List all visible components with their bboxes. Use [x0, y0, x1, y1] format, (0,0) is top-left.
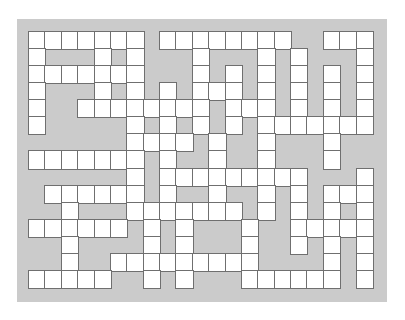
- grid-cell[interactable]: [127, 186, 143, 203]
- grid-cell[interactable]: [340, 220, 356, 237]
- grid-cell[interactable]: [45, 151, 61, 168]
- grid-cell[interactable]: [258, 151, 274, 168]
- grid-cell[interactable]: [340, 186, 356, 203]
- grid-cell[interactable]: [357, 169, 373, 186]
- grid-cell[interactable]: [160, 83, 176, 100]
- grid-cell[interactable]: [127, 203, 143, 220]
- grid-cell[interactable]: [291, 271, 307, 288]
- grid-cell[interactable]: [160, 169, 176, 186]
- grid-cell[interactable]: [258, 49, 274, 66]
- grid-cell[interactable]: [357, 49, 373, 66]
- grid-cell[interactable]: [62, 220, 78, 237]
- grid-cell[interactable]: [176, 237, 192, 254]
- grid-cell[interactable]: [29, 83, 45, 100]
- grid-cell[interactable]: [193, 203, 209, 220]
- grid-cell[interactable]: [45, 271, 61, 288]
- grid-cell[interactable]: [258, 271, 274, 288]
- grid-cell[interactable]: [95, 49, 111, 66]
- grid-cell[interactable]: [95, 186, 111, 203]
- grid-cell[interactable]: [111, 66, 127, 83]
- grid-cell[interactable]: [258, 203, 274, 220]
- grid-cell[interactable]: [307, 271, 323, 288]
- grid-cell[interactable]: [324, 151, 340, 168]
- grid-cell[interactable]: [45, 66, 61, 83]
- grid-cell[interactable]: [62, 66, 78, 83]
- grid-cell[interactable]: [357, 32, 373, 49]
- grid-cell[interactable]: [127, 49, 143, 66]
- grid-cell[interactable]: [275, 117, 291, 134]
- grid-cell[interactable]: [111, 151, 127, 168]
- grid-cell[interactable]: [291, 83, 307, 100]
- grid-cell[interactable]: [291, 220, 307, 237]
- grid-cell[interactable]: [29, 220, 45, 237]
- grid-cell[interactable]: [324, 254, 340, 271]
- grid-cell[interactable]: [29, 66, 45, 83]
- grid-cell[interactable]: [340, 117, 356, 134]
- grid-cell[interactable]: [242, 100, 258, 117]
- grid-cell[interactable]: [111, 254, 127, 271]
- grid-cell[interactable]: [258, 83, 274, 100]
- grid-cell[interactable]: [127, 134, 143, 151]
- grid-cell[interactable]: [357, 100, 373, 117]
- grid-cell[interactable]: [111, 100, 127, 117]
- grid-cell[interactable]: [258, 186, 274, 203]
- grid-cell[interactable]: [275, 271, 291, 288]
- grid-cell[interactable]: [324, 117, 340, 134]
- grid-cell[interactable]: [193, 49, 209, 66]
- grid-cell[interactable]: [324, 186, 340, 203]
- grid-cell[interactable]: [95, 151, 111, 168]
- grid-cell[interactable]: [144, 134, 160, 151]
- grid-cell[interactable]: [95, 32, 111, 49]
- grid-cell[interactable]: [29, 151, 45, 168]
- grid-cell[interactable]: [144, 271, 160, 288]
- grid-cell[interactable]: [357, 237, 373, 254]
- grid-cell[interactable]: [324, 203, 340, 220]
- grid-cell[interactable]: [258, 66, 274, 83]
- grid-cell[interactable]: [324, 134, 340, 151]
- grid-cell[interactable]: [160, 100, 176, 117]
- grid-cell[interactable]: [95, 271, 111, 288]
- grid-cell[interactable]: [209, 134, 225, 151]
- grid-cell[interactable]: [95, 66, 111, 83]
- grid-cell[interactable]: [160, 254, 176, 271]
- grid-cell[interactable]: [258, 117, 274, 134]
- grid-cell[interactable]: [291, 237, 307, 254]
- grid-cell[interactable]: [226, 117, 242, 134]
- grid-cell[interactable]: [226, 83, 242, 100]
- grid-cell[interactable]: [340, 32, 356, 49]
- grid-cell[interactable]: [78, 271, 94, 288]
- grid-cell[interactable]: [176, 271, 192, 288]
- grid-cell[interactable]: [62, 203, 78, 220]
- grid-cell[interactable]: [209, 254, 225, 271]
- grid-cell[interactable]: [176, 169, 192, 186]
- grid-cell[interactable]: [193, 100, 209, 117]
- grid-cell[interactable]: [242, 220, 258, 237]
- grid-cell[interactable]: [226, 100, 242, 117]
- grid-cell[interactable]: [144, 100, 160, 117]
- grid-cell[interactable]: [176, 32, 192, 49]
- grid-cell[interactable]: [226, 66, 242, 83]
- grid-cell[interactable]: [127, 83, 143, 100]
- grid-cell[interactable]: [78, 66, 94, 83]
- grid-cell[interactable]: [193, 169, 209, 186]
- grid-cell[interactable]: [357, 203, 373, 220]
- grid-cell[interactable]: [29, 117, 45, 134]
- grid-cell[interactable]: [275, 32, 291, 49]
- grid-cell[interactable]: [357, 186, 373, 203]
- grid-cell[interactable]: [176, 100, 192, 117]
- grid-cell[interactable]: [78, 32, 94, 49]
- grid-cell[interactable]: [324, 83, 340, 100]
- grid-cell[interactable]: [242, 32, 258, 49]
- grid-cell[interactable]: [357, 66, 373, 83]
- grid-cell[interactable]: [209, 151, 225, 168]
- grid-cell[interactable]: [357, 83, 373, 100]
- grid-cell[interactable]: [209, 186, 225, 203]
- grid-cell[interactable]: [144, 203, 160, 220]
- grid-cell[interactable]: [291, 169, 307, 186]
- grid-cell[interactable]: [209, 169, 225, 186]
- grid-cell[interactable]: [95, 100, 111, 117]
- grid-cell[interactable]: [62, 271, 78, 288]
- grid-cell[interactable]: [95, 83, 111, 100]
- grid-cell[interactable]: [78, 186, 94, 203]
- grid-cell[interactable]: [29, 271, 45, 288]
